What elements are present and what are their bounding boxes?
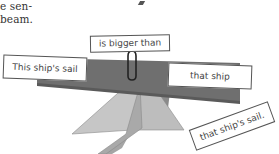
- card-label: is bigger than: [91, 35, 169, 51]
- card-this-ships-sail: This ship's sail: [3, 55, 88, 82]
- card-that-ship: that ship: [168, 63, 253, 90]
- card-label: that ship: [169, 64, 252, 89]
- card-label: This ship's sail: [4, 56, 87, 81]
- card-is-bigger-than: is bigger than: [90, 34, 170, 52]
